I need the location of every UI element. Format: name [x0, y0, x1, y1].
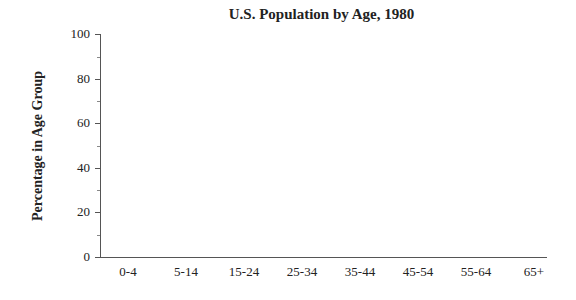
y-tick-label: 0	[84, 249, 91, 265]
y-minor-tick	[97, 190, 100, 191]
y-tick	[95, 212, 100, 213]
x-tick-label: 0-4	[119, 264, 136, 280]
y-minor-tick	[97, 101, 100, 102]
x-axis-line	[96, 257, 547, 258]
x-tick-label: 35-44	[345, 264, 375, 280]
y-tick-label: 60	[77, 115, 90, 131]
y-tick	[95, 79, 100, 80]
y-minor-tick	[97, 235, 100, 236]
y-minor-tick	[97, 146, 100, 147]
x-tick-label: 25-34	[287, 264, 317, 280]
x-tick-label: 15-24	[229, 264, 259, 280]
y-tick-label: 80	[77, 71, 90, 87]
y-axis-line	[100, 34, 101, 258]
chart-title: U.S. Population by Age, 1980	[96, 6, 547, 23]
y-minor-tick	[97, 57, 100, 58]
x-tick-label: 45-54	[403, 264, 433, 280]
x-tick-label: 5-14	[174, 264, 198, 280]
y-axis-label: Percentage in Age Group	[30, 71, 46, 221]
y-tick	[95, 257, 100, 258]
y-tick	[95, 34, 100, 35]
y-tick	[95, 168, 100, 169]
x-tick-label: 65+	[524, 264, 544, 280]
y-tick	[95, 123, 100, 124]
y-tick-label: 20	[77, 204, 90, 220]
y-tick-label: 40	[77, 160, 90, 176]
x-tick-label: 55-64	[461, 264, 491, 280]
y-tick-label: 100	[71, 26, 91, 42]
